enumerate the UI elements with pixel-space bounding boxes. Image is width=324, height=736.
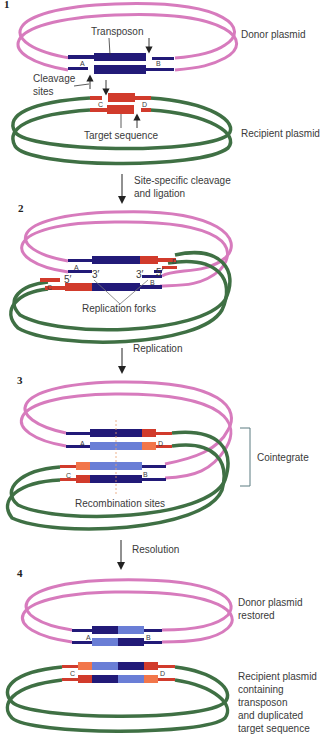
strand-segment (144, 629, 162, 632)
strand-segment (142, 442, 156, 450)
donor-ring-bottom (22, 592, 232, 642)
strand-segment (62, 678, 78, 681)
strand-segment (78, 675, 92, 683)
strand-segment (68, 259, 92, 262)
flank-C-bottom (90, 108, 107, 112)
site-label-C: C (98, 101, 103, 108)
strand-segment (118, 662, 144, 670)
site-label-A: A (80, 60, 85, 67)
transition-label-line2: and ligation (134, 188, 185, 199)
recipient-transposon (62, 662, 175, 683)
flank-A-top (68, 55, 94, 59)
strand-segment (162, 266, 177, 269)
transposition-diagram: 1 A B Transposon Donor plasmid Cleavage … (0, 0, 324, 736)
strand-segment (92, 256, 140, 264)
recipient-plasmid-label: Recipient plasmid (241, 128, 320, 139)
strand-segment (92, 626, 118, 634)
recipient-result-line1: Recipient plasmid (238, 671, 317, 682)
strand-segment (144, 641, 162, 644)
site-label-D: D (172, 258, 177, 265)
transition-3: Resolution (121, 540, 179, 566)
strand-segment (142, 429, 156, 437)
flank-D-top (135, 96, 151, 100)
recipient-ring-bottom (7, 680, 227, 731)
transition-label-line1: Site-specific cleavage (134, 175, 231, 186)
replication-forks-label: Replication forks (82, 303, 156, 314)
cleavage-label-line2: sites (33, 86, 54, 97)
strand-segment (158, 678, 175, 681)
five-prime-right: 5′ (156, 267, 164, 278)
recipient-ring-top (7, 667, 227, 716)
strand-segment (142, 478, 166, 481)
step-number: 1 (4, 0, 10, 10)
transition-label: Resolution (132, 544, 179, 555)
strand-segment (72, 629, 92, 632)
site-label-A: A (86, 634, 91, 641)
transposon-pointer (109, 38, 110, 55)
strand-segment (144, 662, 158, 670)
step-number: 4 (17, 567, 23, 579)
transition-2: Replication (122, 343, 182, 370)
donor-plasmid-label: Donor plasmid (241, 29, 305, 40)
donor-restored-line1: Donor plasmid (238, 597, 302, 608)
transition-1: Site-specific cleavage and ligation (122, 174, 231, 200)
strand-segment (72, 641, 92, 644)
strand-segment (156, 432, 172, 435)
strand-segment (118, 638, 144, 646)
strand-segment (66, 432, 90, 435)
flank-A-bottom (68, 67, 88, 70)
strand-segment (118, 675, 144, 683)
site-label-B: B (146, 634, 151, 641)
flank-B-bottom (146, 68, 174, 71)
five-prime-left: 5′ (64, 274, 72, 285)
strand-segment (78, 662, 92, 670)
strand-segment (118, 626, 144, 634)
strand-segment (142, 465, 166, 468)
transition-label: Replication (133, 343, 182, 354)
step-4: 4 A B Donor plasmid restored (7, 567, 317, 734)
recipient-result-line4: and duplicated (238, 710, 303, 721)
flank-C-top (90, 96, 102, 100)
cointegrate-label: Cointegrate (257, 452, 309, 463)
target-bottom-strand (107, 105, 134, 114)
strand-segment (92, 662, 118, 670)
target-sequence-label: Target sequence (84, 130, 158, 141)
donor-plasmid (22, 212, 232, 286)
step-3: 3 A D C B (8, 374, 310, 529)
strand-segment (76, 462, 90, 470)
recipient-ring-top (14, 253, 230, 330)
site-label-B: B (156, 60, 161, 67)
site-label-D: D (160, 670, 165, 677)
strand-segment (144, 675, 158, 683)
strand-segment (68, 270, 92, 273)
cointegrate-bracket (240, 428, 250, 486)
cleavage-pointer (74, 84, 89, 86)
site-label-D: D (158, 440, 163, 447)
site-label-A: A (74, 264, 79, 271)
step-1: 1 A B Transposon Donor plasmid Cleavage … (4, 0, 320, 164)
donor-ring-top (26, 580, 231, 630)
recipient-result-line2: containing (238, 684, 284, 695)
strand-segment (66, 445, 90, 448)
donor-restored-line2: restored (238, 610, 275, 621)
strand-segment (140, 256, 158, 264)
strand-segment (92, 283, 140, 291)
cleavage-label-line1: Cleavage (33, 73, 76, 84)
three-prime-right: 3′ (136, 269, 144, 280)
transposon-top-strand (94, 53, 146, 61)
target-top-strand (108, 93, 135, 102)
strand-segment (40, 278, 60, 282)
strand-segment (62, 665, 78, 668)
site-label-B: B (150, 279, 155, 286)
recipient-result-line3: transposon (238, 697, 287, 708)
strand-segment (76, 475, 90, 483)
site-label-D: D (142, 101, 147, 108)
site-label-C: C (47, 284, 52, 291)
three-prime-left: 3′ (92, 269, 100, 280)
step-number: 2 (18, 202, 24, 214)
step-2: 2 A B C D 3′ 3′ 5′ (11, 202, 232, 342)
recipient-result-line5: target sequence (238, 723, 310, 734)
site-label-C: C (70, 670, 75, 677)
transposon-bottom-strand (94, 65, 146, 74)
strand-segment (158, 665, 175, 668)
